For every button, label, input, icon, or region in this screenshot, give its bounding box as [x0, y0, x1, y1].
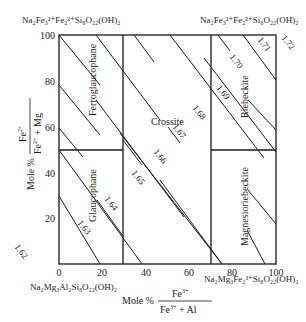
- isoline: [134, 35, 154, 62]
- svg-text:Fe2+: Fe2+: [17, 125, 28, 142]
- x-tick-60: 60: [184, 267, 194, 278]
- corner-formula-top-left: Na₂Fe₃²⁺Fe₂³⁺Si₈O₂₂(OH)₂: [22, 15, 120, 25]
- isoline: [248, 232, 265, 264]
- x-tick-80: 80: [227, 267, 237, 278]
- isoline: [248, 100, 276, 130]
- isoline-labels: 1.62 1.63 1.64 1.65 1.66 1.67 1.68 1.69 …: [12, 33, 297, 261]
- y-tick-80: 80: [45, 76, 55, 87]
- y-axis-label: Mole % Fe2+ Fe2+ + Mg: [17, 98, 43, 190]
- isoline-label-1-64: 1.64: [102, 194, 120, 213]
- x-axis-label: Mole % Fe3+ Fe3+ + Al: [122, 288, 212, 315]
- field-label-glaucophane: Glaucophane: [87, 169, 98, 222]
- isoline-label-1-68: 1.68: [190, 103, 208, 122]
- isoline-label-1-70: 1.70: [227, 52, 245, 71]
- y-tick-60: 60: [45, 122, 55, 133]
- isoline: [96, 35, 160, 120]
- svg-text:Fe3+: Fe3+: [172, 288, 189, 299]
- isoline: [160, 180, 222, 264]
- isoline-label-1-71: 1.71: [255, 35, 273, 54]
- isoline-1-65: [59, 150, 142, 264]
- x-tick-40: 40: [141, 267, 151, 278]
- isoline: [59, 128, 83, 157]
- isoline-label-1-65: 1.65: [129, 168, 147, 187]
- isoline-label-1-69: 1.69: [214, 83, 232, 102]
- field-label-riebeckite: Riebeckite: [239, 75, 250, 118]
- isoline-label-1-67: 1.67: [170, 122, 188, 141]
- field-label-ferroglaucophane: Ferroglaucophane: [87, 43, 98, 116]
- isoline-1-70: [218, 35, 230, 51]
- svg-text:Mole %: Mole %: [122, 295, 154, 306]
- svg-text:Mole %: Mole %: [25, 158, 36, 190]
- amphibole-diagram: Na₂Fe₃²⁺Fe₂³⁺Si₈O₂₂(OH)₂ Na₂Fe₃²⁺Fe₂³⁺Si…: [0, 0, 306, 322]
- x-tick-100: 100: [269, 267, 284, 278]
- isoline-label-1-66: 1.66: [151, 147, 169, 166]
- svg-text:Fe2+ + Mg: Fe2+ + Mg: [32, 113, 43, 154]
- corner-formula-top-right: Na₂Fe₃²⁺Fe₂³⁺Si₈O₂₂(OH)₂: [200, 15, 298, 25]
- y-tick-20: 20: [45, 213, 55, 224]
- svg-text:Fe3+ + Al: Fe3+ + Al: [160, 304, 197, 315]
- x-tick-20: 20: [97, 267, 107, 278]
- isoline: [248, 190, 276, 224]
- y-tick-40: 40: [45, 168, 55, 179]
- isoline: [123, 140, 142, 165]
- x-tick-0: 0: [57, 267, 62, 278]
- corner-formula-bottom-right: Na₂Mg₃Fe₂³⁺Si₈O₂₂(OH)₂: [204, 274, 298, 284]
- field-label-magnesioriebeckite: Magnesioriebeckite: [239, 167, 250, 246]
- isoline-label-1-72: 1.72: [279, 33, 297, 52]
- y-tick-100: 100: [40, 30, 55, 41]
- isoline: [120, 133, 222, 264]
- isoline-label-1-62: 1.62: [12, 242, 30, 261]
- corner-formula-bottom-left: Na₂Mg₃Al₂Si₈O₂₂(OH)₂: [30, 282, 117, 292]
